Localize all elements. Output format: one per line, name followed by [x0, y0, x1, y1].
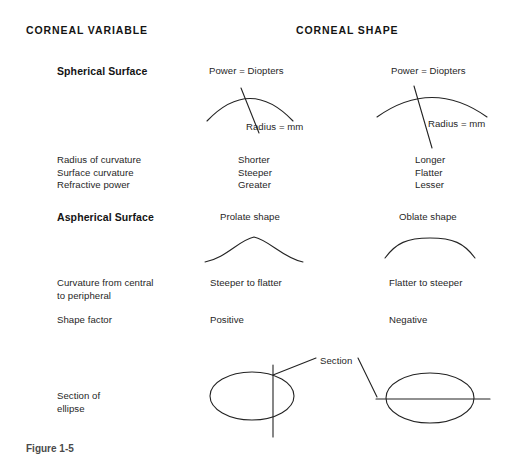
ellipse-left [210, 372, 294, 420]
leader-line-right [358, 358, 377, 397]
figure-caption: Figure 1-5 [26, 443, 74, 454]
aspherical-shape-factor-value-left: Positive [210, 314, 244, 327]
ellipse-section-label: Section ofellipse [57, 390, 100, 415]
curve-oblate [385, 238, 475, 258]
section-title-spherical-surface: Spherical Surface [57, 65, 147, 77]
aspherical-curvature-value-left: Steeper to flatter [210, 277, 282, 290]
ellipse-right [386, 373, 474, 423]
radius-line-right [414, 86, 432, 148]
diagram-caption-prolate-shape: Prolate shape [220, 211, 280, 224]
column-header-corneal-variable: CORNEAL VARIABLE [26, 24, 148, 36]
leader-line-left [273, 358, 316, 375]
spherical-values-right: LongerFlatterLesser [415, 154, 445, 192]
arc-spherical-steep-left [207, 99, 293, 122]
arc-spherical-flat-right [377, 98, 487, 118]
aspherical-variable-shape-factor: Shape factor [57, 314, 112, 327]
aspherical-variable-curvature: Curvature from centralto peripheral [57, 277, 154, 302]
diagram-caption-power-left: Power = Diopters [209, 65, 284, 78]
diagram-caption-power-right: Power = Diopters [391, 65, 466, 78]
section-title-aspherical-surface: Aspherical Surface [57, 211, 154, 223]
diagram-caption-oblate-shape: Oblate shape [399, 211, 457, 224]
section-callout-label: Section [320, 355, 352, 368]
aspherical-curvature-value-right: Flatter to steeper [389, 277, 462, 290]
column-header-corneal-shape: CORNEAL SHAPE [296, 24, 399, 36]
curve-prolate [205, 237, 303, 262]
diagram-caption-radius-left: Radius = mm [246, 121, 303, 134]
figure-page: CORNEAL VARIABLE CORNEAL SHAPE Spherical… [0, 0, 507, 454]
spherical-variable-names: Radius of curvatureSurface curvatureRefr… [57, 154, 141, 192]
spherical-values-left: ShorterSteeperGreater [238, 154, 272, 192]
aspherical-shape-factor-value-right: Negative [389, 314, 427, 327]
diagram-caption-radius-right: Radius = mm [428, 118, 485, 131]
